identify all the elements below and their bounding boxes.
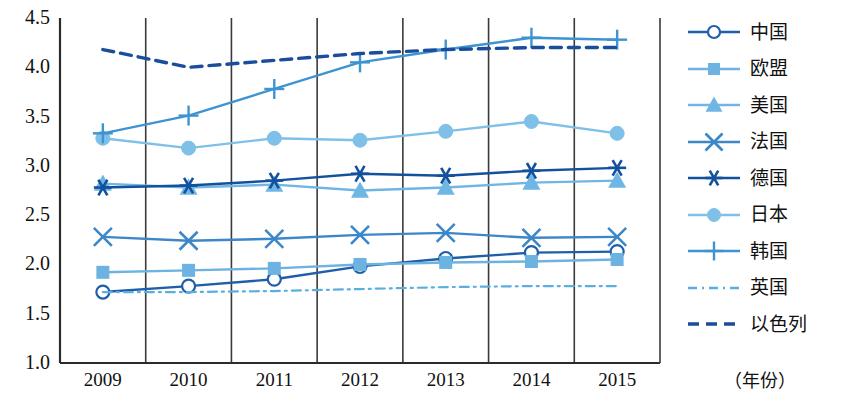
data-point-marker: [351, 166, 369, 182]
data-point-marker: [521, 28, 541, 48]
x-axis-tick-label: 2009: [58, 369, 148, 391]
legend-item-欧盟[interactable]: 欧盟: [686, 51, 838, 88]
marker-filled-circle: [353, 133, 367, 147]
data-point-marker: [96, 266, 109, 279]
marker-filled-square: [439, 256, 452, 269]
x-axis-tick-label: 2015: [572, 369, 662, 391]
legend-item-德国[interactable]: 德国: [686, 160, 838, 197]
legend-item-韩国[interactable]: 韩国: [686, 233, 838, 270]
data-point-marker: [182, 280, 195, 293]
marker-filled-circle: [708, 208, 721, 221]
data-point-marker: [525, 255, 538, 268]
data-point-marker: [267, 131, 281, 145]
marker-filled-square: [96, 266, 109, 279]
legend-label: 英国: [750, 278, 788, 297]
x-axis-tick-label: 2011: [229, 369, 319, 391]
legend-label: 韩国: [750, 242, 788, 261]
legend-swatch-中国: [686, 21, 742, 43]
data-point-marker: [353, 133, 367, 147]
marker-open-circle: [708, 26, 720, 38]
data-point-marker: [705, 242, 724, 261]
legend-item-以色列[interactable]: 以色列: [686, 306, 838, 343]
data-point-marker: [268, 262, 281, 275]
legend-item-日本[interactable]: 日本: [686, 197, 838, 234]
x-axis-tick-label: 2012: [315, 369, 405, 391]
data-point-marker: [708, 26, 720, 38]
marker-filled-square: [708, 63, 720, 75]
y-axis-tick-label: 3.5: [2, 105, 50, 128]
legend-swatch-英国: [686, 277, 742, 299]
legend-item-美国[interactable]: 美国: [686, 87, 838, 124]
data-point-marker: [182, 264, 195, 277]
series-法国: [94, 224, 626, 250]
data-point-marker: [708, 63, 720, 75]
data-point-marker: [264, 79, 284, 99]
marker-filled-square: [354, 258, 367, 271]
marker-filled-circle: [267, 131, 281, 145]
legend-label: 德国: [750, 169, 788, 188]
marker-filled-square: [525, 255, 538, 268]
legend-item-法国[interactable]: 法国: [686, 124, 838, 161]
chart-legend: 中国欧盟美国法国德国日本韩国英国以色列: [686, 14, 838, 343]
series-欧盟: [96, 253, 623, 279]
legend-label: 法国: [750, 132, 788, 151]
series-韩国: [93, 28, 627, 144]
legend-swatch-美国: [686, 94, 742, 116]
y-axis-tick-label: 2.5: [2, 203, 50, 226]
y-axis-tick-label: 2.0: [2, 252, 50, 275]
series-日本: [96, 115, 624, 156]
legend-swatch-法国: [686, 131, 742, 153]
data-point-marker: [610, 126, 624, 140]
data-point-marker: [179, 106, 199, 126]
y-axis-tick-label: 4.0: [2, 55, 50, 78]
marker-filled-circle: [524, 115, 538, 129]
legend-swatch-以色列: [686, 313, 742, 335]
data-point-marker: [708, 208, 721, 221]
data-point-marker: [354, 258, 367, 271]
x-axis-unit-label: （年份）: [724, 366, 796, 392]
x-axis-tick-label: 2010: [144, 369, 234, 391]
marker-filled-circle: [439, 124, 453, 138]
legend-label: 欧盟: [750, 59, 788, 78]
marker-filled-circle: [610, 126, 624, 140]
legend-item-中国[interactable]: 中国: [686, 14, 838, 51]
y-axis-tick-label: 1.0: [2, 351, 50, 374]
legend-swatch-韩国: [686, 240, 742, 262]
legend-label: 日本: [750, 205, 788, 224]
x-axis-tick-label: 2014: [486, 369, 576, 391]
x-axis-tick-label: 2013: [401, 369, 491, 391]
y-axis-tick-label: 1.5: [2, 302, 50, 325]
data-point-marker: [439, 256, 452, 269]
research-spending-line-chart: 4.54.03.53.02.52.01.51.0 200920102011201…: [0, 0, 844, 400]
data-point-marker: [439, 124, 453, 138]
series-lines: [93, 28, 627, 299]
marker-filled-square: [182, 264, 195, 277]
legend-swatch-欧盟: [686, 58, 742, 80]
marker-open-circle: [182, 280, 195, 293]
y-axis-tick-label: 3.0: [2, 154, 50, 177]
legend-label: 以色列: [750, 315, 807, 334]
marker-filled-square: [268, 262, 281, 275]
legend-swatch-德国: [686, 167, 742, 189]
marker-filled-circle: [182, 141, 196, 155]
legend-label: 中国: [750, 23, 788, 42]
legend-swatch-日本: [686, 204, 742, 226]
data-point-marker: [611, 253, 624, 266]
legend-label: 美国: [750, 96, 788, 115]
y-axis-tick-label: 4.5: [2, 6, 50, 29]
data-point-marker: [182, 141, 196, 155]
data-point-marker: [524, 115, 538, 129]
data-point-marker: [706, 171, 723, 186]
legend-item-英国[interactable]: 英国: [686, 270, 838, 307]
marker-filled-square: [611, 253, 624, 266]
